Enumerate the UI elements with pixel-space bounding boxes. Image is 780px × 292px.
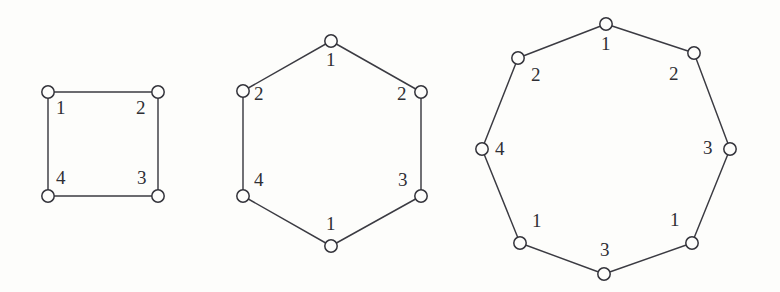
vertex-node[interactable] bbox=[415, 190, 427, 202]
vertex-node[interactable] bbox=[600, 18, 612, 30]
vertex-node[interactable] bbox=[237, 190, 249, 202]
vertex-node[interactable] bbox=[415, 86, 427, 98]
vertex-node[interactable] bbox=[325, 240, 337, 252]
vertex-label: 4 bbox=[254, 170, 264, 189]
polygon-edge bbox=[604, 243, 692, 274]
vertex-label: 2 bbox=[531, 65, 541, 84]
vertex-label: 4 bbox=[495, 139, 505, 158]
vertex-label: 2 bbox=[254, 84, 264, 103]
polygon-edge bbox=[243, 196, 331, 246]
vertex-node[interactable] bbox=[476, 143, 488, 155]
vertex-label: 3 bbox=[137, 168, 147, 187]
polygon-edge bbox=[518, 24, 606, 58]
vertex-node[interactable] bbox=[152, 190, 164, 202]
vertex-label: 4 bbox=[56, 168, 66, 187]
polygon-edge bbox=[331, 196, 421, 246]
polygon-edge bbox=[692, 149, 730, 243]
vertex-node[interactable] bbox=[724, 143, 736, 155]
polygon-edge bbox=[331, 41, 421, 92]
vertex-label: 1 bbox=[532, 211, 542, 230]
figure-canvas: 123412314212313142 bbox=[0, 0, 780, 292]
vertex-node[interactable] bbox=[237, 85, 249, 97]
vertex-label: 3 bbox=[398, 170, 408, 189]
vertex-node[interactable] bbox=[686, 237, 698, 249]
vertex-label: 1 bbox=[326, 214, 336, 233]
vertex-label: 2 bbox=[136, 98, 146, 117]
vertex-node[interactable] bbox=[514, 237, 526, 249]
vertex-label: 1 bbox=[56, 98, 66, 117]
vertex-label: 2 bbox=[669, 64, 679, 83]
polygon-edge bbox=[482, 58, 518, 149]
vertex-label: 2 bbox=[397, 84, 407, 103]
polygon-edge bbox=[520, 243, 604, 274]
vertex-node[interactable] bbox=[152, 86, 164, 98]
vertex-node[interactable] bbox=[42, 190, 54, 202]
vertex-label: 3 bbox=[600, 240, 610, 259]
vertex-label: 3 bbox=[703, 138, 713, 157]
vertex-node[interactable] bbox=[42, 86, 54, 98]
vertex-node[interactable] bbox=[325, 35, 337, 47]
vertex-node[interactable] bbox=[688, 47, 700, 59]
vertex-node[interactable] bbox=[598, 268, 610, 280]
polygon-edge bbox=[482, 149, 520, 243]
polygon-edge bbox=[694, 53, 730, 149]
vertex-node[interactable] bbox=[512, 52, 524, 64]
polygon-diagram-group bbox=[0, 0, 780, 292]
vertex-label: 1 bbox=[601, 34, 611, 53]
vertex-label: 1 bbox=[326, 50, 336, 69]
polygon-edge bbox=[606, 24, 694, 53]
vertex-label: 1 bbox=[670, 210, 680, 229]
